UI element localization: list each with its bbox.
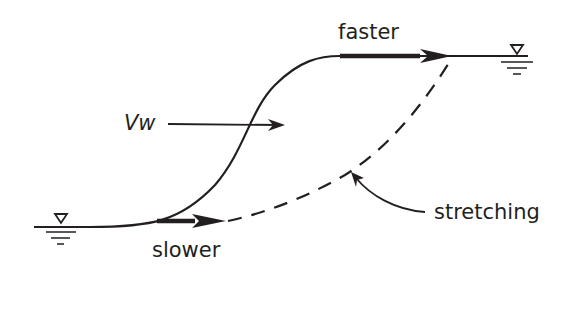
- slower-arrow: [157, 214, 226, 228]
- right-water-level-icon: [501, 45, 533, 74]
- faster-arrow: [340, 49, 452, 63]
- slower-label: slower: [152, 240, 220, 261]
- stretching-label: stretching: [434, 202, 540, 223]
- vw-label: Vw: [124, 113, 156, 134]
- diagram-canvas: [0, 0, 586, 310]
- faster-label: faster: [338, 22, 399, 43]
- dashed-wave-profile: [228, 58, 452, 221]
- vw-arrow: [168, 119, 285, 131]
- left-water-level-icon: [46, 214, 76, 244]
- stretching-arrow: [351, 172, 425, 212]
